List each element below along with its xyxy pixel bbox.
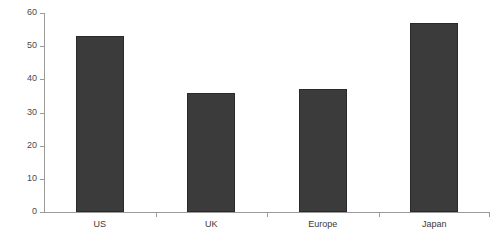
- y-tick-label: 60: [27, 6, 37, 19]
- y-axis-tick: 20: [0, 146, 44, 147]
- x-axis-category-label: UK: [156, 218, 268, 231]
- x-tick-mark: [489, 212, 490, 217]
- y-tick-mark: [40, 179, 44, 180]
- y-tick-mark: [40, 46, 44, 47]
- y-tick-mark: [40, 13, 44, 14]
- y-tick-label: 50: [27, 39, 37, 52]
- bar: [187, 93, 235, 212]
- y-tick-label: 30: [27, 106, 37, 119]
- x-tick-mark: [156, 212, 157, 217]
- bar: [299, 89, 347, 212]
- y-axis-tick: 30: [0, 113, 44, 114]
- y-axis-tick: 60: [0, 13, 44, 14]
- y-tick-label: 10: [27, 172, 37, 185]
- y-tick-label: 0: [32, 205, 37, 218]
- bar: [410, 23, 458, 212]
- x-axis-category-label: Europe: [267, 218, 379, 231]
- y-axis-tick: 40: [0, 79, 44, 80]
- y-axis-tick: 50: [0, 46, 44, 47]
- y-tick-label: 40: [27, 72, 37, 85]
- y-tick-mark: [40, 79, 44, 80]
- y-axis-tick: 0: [0, 212, 44, 213]
- x-axis-category-label: Japan: [379, 218, 491, 231]
- bar: [76, 36, 124, 212]
- y-tick-label: 20: [27, 139, 37, 152]
- x-tick-mark: [267, 212, 268, 217]
- bar-chart: 0102030405060 USUKEuropeJapan: [0, 0, 492, 241]
- y-axis-line: [44, 13, 45, 213]
- y-axis-tick: 10: [0, 179, 44, 180]
- y-tick-mark: [40, 113, 44, 114]
- x-axis-category-label: US: [44, 218, 156, 231]
- y-tick-mark: [40, 212, 44, 213]
- x-tick-mark: [379, 212, 380, 217]
- y-tick-mark: [40, 146, 44, 147]
